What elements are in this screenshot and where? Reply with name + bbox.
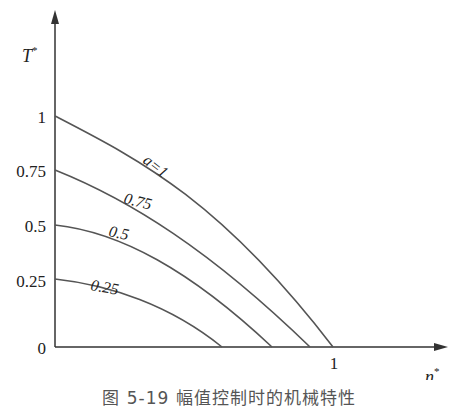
curve-label-0-25: 0.25 bbox=[89, 276, 120, 298]
mechanical-characteristic-chart: T* n* 1 0.75 0.5 0.25 0 1 a=1 0.75 0.5 0… bbox=[0, 0, 458, 380]
y-tick-0: 0 bbox=[38, 339, 47, 358]
x-axis-label: n* bbox=[425, 365, 440, 380]
figure-caption: 图 5-19 幅值控制时的机械特性 bbox=[0, 384, 458, 407]
curve-label-0-75: 0.75 bbox=[122, 189, 153, 212]
curve-label-0-5: 0.5 bbox=[107, 222, 130, 243]
y-tick-0-75: 0.75 bbox=[16, 162, 46, 181]
curve-a-0-25 bbox=[55, 279, 222, 347]
y-tick-0-25: 0.25 bbox=[16, 272, 46, 291]
y-tick-1: 1 bbox=[38, 108, 47, 127]
y-tick-0-5: 0.5 bbox=[25, 217, 46, 236]
curve-a-0-5 bbox=[55, 225, 272, 347]
x-tick-1: 1 bbox=[330, 354, 339, 373]
x-axis-arrow-icon bbox=[434, 343, 448, 351]
curve-label-a-1: a=1 bbox=[140, 151, 172, 181]
y-axis-arrow-icon bbox=[51, 10, 59, 24]
y-axis-label: T* bbox=[22, 44, 38, 66]
curve-a-1 bbox=[55, 116, 333, 347]
